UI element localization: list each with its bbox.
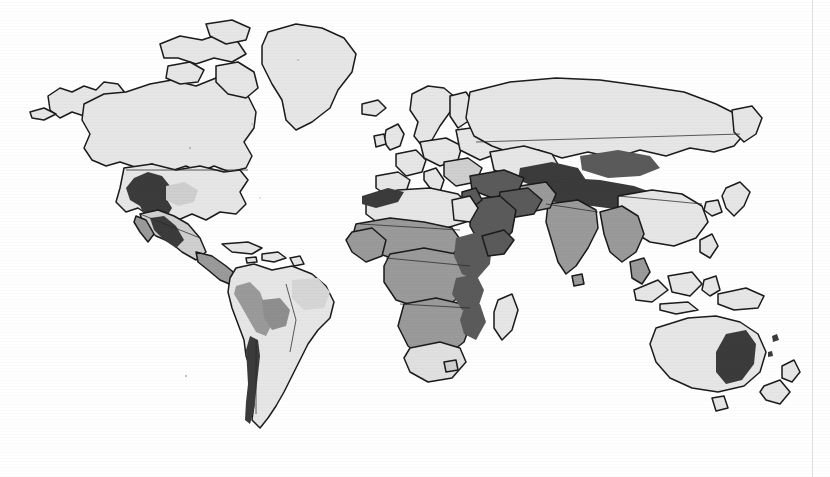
world-map-figure xyxy=(0,0,830,477)
speck xyxy=(461,127,463,129)
speck xyxy=(259,197,260,198)
speck xyxy=(297,59,299,61)
scan-edge-line xyxy=(812,0,813,477)
world-map-svg xyxy=(0,0,830,477)
speck xyxy=(189,147,191,149)
speck xyxy=(185,375,187,377)
region-ireland xyxy=(374,134,386,147)
region-jamaica xyxy=(246,257,257,263)
speck xyxy=(251,123,253,125)
map-page xyxy=(0,0,830,477)
region-sri-lanka xyxy=(572,274,584,286)
region-lesotho xyxy=(444,360,458,372)
